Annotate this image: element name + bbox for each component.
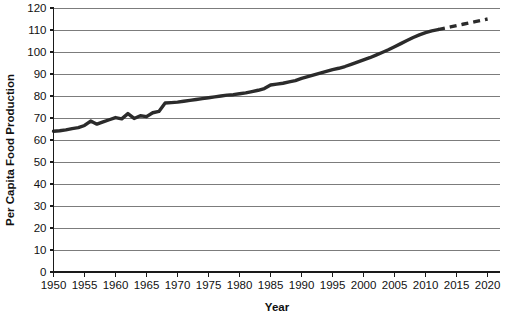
y-tick-label-30: 30	[34, 200, 47, 212]
y-tick-label-110: 110	[28, 24, 46, 36]
x-tick-label-2005: 2005	[382, 279, 408, 291]
x-axis-title: Year	[265, 301, 290, 313]
y-tick-label-10: 10	[34, 244, 47, 256]
x-tick-label-1965: 1965	[134, 279, 160, 291]
x-tick-label-2010: 2010	[413, 279, 439, 291]
data-series-group	[54, 19, 488, 131]
x-tick-label-1970: 1970	[165, 279, 191, 291]
x-tick-label-2015: 2015	[444, 279, 470, 291]
x-tick-label-2020: 2020	[475, 279, 501, 291]
y-tick-label-80: 80	[34, 90, 47, 102]
y-tick-label-50: 50	[34, 156, 47, 168]
x-tick-label-1955: 1955	[72, 279, 98, 291]
y-axis-ticks: 0102030405060708090100110120	[27, 2, 53, 278]
x-tick-label-1985: 1985	[258, 279, 284, 291]
y-tick-label-20: 20	[34, 222, 47, 234]
chart-container: 0102030405060708090100110120 19501955196…	[0, 0, 510, 316]
x-tick-label-1995: 1995	[320, 279, 346, 291]
x-axis-ticks: 1950195519601965197019751980198519901995…	[41, 272, 501, 291]
x-tick-label-1990: 1990	[289, 279, 315, 291]
grid-lines	[54, 8, 501, 250]
y-tick-label-120: 120	[27, 2, 46, 14]
y-tick-label-90: 90	[34, 68, 47, 80]
x-tick-label-1950: 1950	[41, 279, 67, 291]
y-tick-label-40: 40	[34, 178, 47, 190]
x-tick-label-2000: 2000	[351, 279, 377, 291]
y-tick-label-60: 60	[34, 134, 47, 146]
y-axis-title: Per Capita Food Production	[4, 74, 16, 226]
series-line-1	[438, 19, 488, 30]
y-tick-label-0: 0	[40, 266, 46, 278]
series-line-0	[54, 30, 438, 132]
y-tick-label-100: 100	[27, 46, 46, 58]
x-tick-label-1960: 1960	[103, 279, 129, 291]
per-capita-food-production-line-chart: 0102030405060708090100110120 19501955196…	[0, 0, 510, 316]
x-tick-label-1975: 1975	[196, 279, 222, 291]
x-tick-label-1980: 1980	[227, 279, 253, 291]
y-tick-label-70: 70	[34, 112, 47, 124]
